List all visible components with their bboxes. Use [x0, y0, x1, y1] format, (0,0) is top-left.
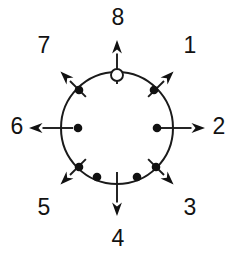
arrow-2 — [161, 123, 205, 133]
diagram-canvas: 12345678 — [0, 0, 237, 259]
direction-label-6: 6 — [11, 113, 24, 139]
arrow-6-head — [29, 123, 43, 133]
arrow-layer — [29, 40, 205, 216]
radial-direction-diagram: 12345678 — [0, 0, 237, 259]
arrow-8-head — [112, 40, 122, 54]
marker-left — [74, 124, 83, 133]
marker-lower-left — [75, 163, 84, 172]
marker-upper-right — [150, 86, 159, 95]
marker-bottom-left — [93, 173, 102, 182]
direction-label-4: 4 — [112, 225, 125, 251]
marker-bottom-right — [133, 173, 142, 182]
direction-label-7: 7 — [38, 32, 51, 58]
arrow-4-head — [112, 203, 122, 217]
direction-label-3: 3 — [184, 194, 197, 220]
direction-label-1: 1 — [184, 32, 197, 58]
marker-upper-left — [75, 86, 84, 95]
direction-label-8: 8 — [112, 4, 125, 30]
marker-right — [153, 124, 162, 133]
arrow-6 — [29, 123, 73, 133]
direction-label-2: 2 — [213, 113, 226, 139]
marker-top — [111, 69, 123, 81]
marker-layer — [74, 69, 162, 181]
direction-label-5: 5 — [38, 194, 51, 220]
marker-lower-right — [152, 163, 161, 172]
arrow-2-head — [192, 123, 206, 133]
arrow-4 — [112, 172, 122, 216]
